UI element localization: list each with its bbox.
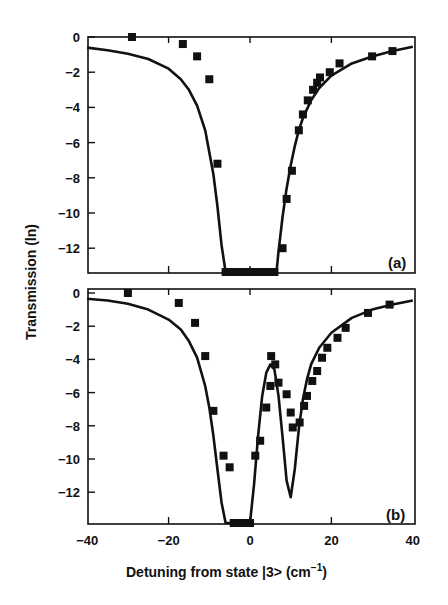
data-point-marker bbox=[213, 160, 221, 168]
y-tick-label: −10 bbox=[58, 206, 80, 221]
data-point-marker bbox=[271, 360, 279, 368]
data-point-marker bbox=[179, 40, 187, 48]
data-point-marker bbox=[368, 52, 376, 60]
panel-a-fit-curve bbox=[87, 47, 413, 272]
x-tick-label: −40 bbox=[76, 533, 98, 548]
data-point-marker bbox=[296, 418, 304, 426]
data-point-marker bbox=[299, 110, 307, 118]
x-tick-label: 0 bbox=[246, 533, 253, 548]
y-tick-label: 0 bbox=[73, 286, 80, 301]
y-tick-label: −6 bbox=[65, 386, 80, 401]
panel-b-y-ticks: 0−2−4−6−8−10−12 bbox=[58, 286, 95, 500]
data-point-marker bbox=[288, 167, 296, 175]
data-point-marker bbox=[267, 352, 275, 360]
data-point-marker bbox=[313, 367, 321, 375]
y-tick-label: −2 bbox=[65, 65, 80, 80]
y-tick-label: −4 bbox=[65, 100, 81, 115]
y-tick-label: −6 bbox=[65, 136, 80, 151]
data-point-marker bbox=[342, 324, 350, 332]
data-point-marker bbox=[274, 379, 282, 387]
y-tick-label: −8 bbox=[65, 419, 80, 434]
x-tick-label: 40 bbox=[406, 533, 420, 548]
data-point-marker bbox=[193, 52, 201, 60]
data-point-marker bbox=[209, 407, 217, 415]
data-point-marker bbox=[201, 352, 209, 360]
data-point-marker bbox=[334, 334, 342, 342]
data-point-marker bbox=[226, 463, 234, 471]
data-point-marker bbox=[300, 402, 308, 410]
data-point-marker bbox=[279, 244, 287, 252]
panel-label-b: (b) bbox=[386, 506, 405, 523]
data-point-marker bbox=[316, 73, 324, 81]
y-tick-label: −8 bbox=[65, 171, 80, 186]
x-tick-label: −20 bbox=[158, 533, 180, 548]
y-tick-label: −4 bbox=[65, 352, 81, 367]
data-point-marker bbox=[323, 344, 331, 352]
y-tick-label: −2 bbox=[65, 319, 80, 334]
data-point-marker bbox=[364, 309, 372, 317]
data-point-marker bbox=[175, 299, 183, 307]
data-point-marker bbox=[386, 301, 394, 309]
x-tick-label: 20 bbox=[324, 533, 338, 548]
data-point-marker bbox=[309, 86, 317, 94]
data-point-marker bbox=[308, 377, 316, 385]
x-axis-title-close: ) bbox=[322, 564, 327, 580]
figure: 0−2−4−6−8−10−12 (a) 0−2−4−6−8−10−12 (b) … bbox=[0, 0, 448, 605]
data-point-marker bbox=[124, 289, 132, 297]
panel-b-fit-curve bbox=[87, 299, 413, 523]
panel-b-frame bbox=[88, 289, 415, 524]
data-point-marker bbox=[283, 390, 291, 398]
x-axis-title-superscript: −1 bbox=[311, 562, 323, 573]
data-point-marker bbox=[289, 423, 297, 431]
data-point-marker bbox=[191, 319, 199, 327]
data-point-marker bbox=[295, 126, 303, 134]
panel-a-x-ticks bbox=[169, 37, 332, 273]
data-point-marker bbox=[303, 392, 311, 400]
data-point-marker bbox=[304, 96, 312, 104]
panel-a: 0−2−4−6−8−10−12 (a) bbox=[58, 30, 415, 276]
data-point-marker bbox=[326, 68, 334, 76]
data-point-marker bbox=[318, 354, 326, 362]
data-point-marker bbox=[220, 452, 228, 460]
data-point-marker bbox=[262, 404, 270, 412]
panel-label-a: (a) bbox=[388, 254, 406, 271]
x-axis-title-main: Detuning from state |3> (cm bbox=[126, 564, 311, 580]
y-tick-label: −12 bbox=[58, 485, 80, 500]
data-point-marker bbox=[251, 452, 259, 460]
data-point-marker bbox=[256, 437, 264, 445]
panel-a-frame bbox=[88, 37, 415, 273]
data-point-marker bbox=[246, 519, 254, 527]
y-tick-label: −12 bbox=[58, 241, 80, 256]
data-point-marker bbox=[270, 268, 278, 276]
data-point-marker bbox=[287, 409, 295, 417]
panel-a-y-ticks: 0−2−4−6−8−10−12 bbox=[58, 30, 95, 256]
y-tick-label: −10 bbox=[58, 452, 80, 467]
data-point-marker bbox=[266, 382, 274, 390]
data-point-marker bbox=[336, 59, 344, 67]
data-point-marker bbox=[205, 75, 213, 83]
data-point-marker bbox=[388, 47, 396, 55]
x-tick-labels: −40−2002040 bbox=[76, 533, 420, 548]
data-point-marker bbox=[283, 195, 291, 203]
panel-b: 0−2−4−6−8−10−12 (b) bbox=[58, 286, 415, 527]
y-tick-label: 0 bbox=[73, 30, 80, 45]
y-axis-title: Transmission (ln) bbox=[23, 224, 39, 340]
x-axis-title: Detuning from state |3> (cm−1) bbox=[126, 562, 327, 580]
panel-b-data-points bbox=[124, 289, 394, 527]
data-point-marker bbox=[128, 33, 136, 41]
